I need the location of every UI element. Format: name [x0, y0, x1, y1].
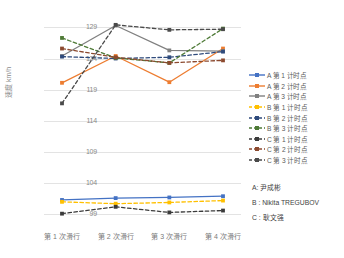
y-axis-tick-label: 99 — [75, 210, 97, 217]
data-point-marker — [114, 23, 118, 27]
data-point-marker — [60, 54, 64, 58]
data-point-marker — [114, 205, 118, 209]
data-point-marker — [221, 209, 225, 213]
legend-label: B 第 1 计时点 — [265, 102, 308, 112]
legend-key-icon — [249, 70, 265, 80]
legend-label: A 第 3 计时点 — [265, 91, 307, 101]
data-point-marker — [167, 196, 171, 200]
data-point-marker — [167, 61, 171, 65]
data-point-marker — [60, 200, 64, 204]
series-line — [62, 201, 223, 204]
legend-item[interactable]: B 第 2 计时点 — [249, 112, 344, 123]
data-point-marker — [114, 196, 118, 200]
legend-label: A 第 2 计时点 — [265, 81, 307, 91]
legend-label: C 第 3 计时点 — [265, 155, 308, 165]
x-axis-tick-label: 第 4 次滑行 — [197, 231, 249, 241]
data-point-marker — [167, 49, 171, 53]
legend-item[interactable]: A 第 3 计时点 — [249, 91, 344, 102]
legend-key-icon — [249, 144, 265, 154]
y-axis-tick-label: 104 — [75, 179, 97, 186]
data-point-marker — [60, 198, 64, 202]
note-line: C : 耿文强 — [252, 212, 344, 222]
data-point-marker — [60, 36, 64, 40]
gridline — [44, 214, 241, 215]
data-point-marker — [60, 47, 64, 51]
y-axis-tick-label: 119 — [75, 86, 97, 93]
legend-item[interactable]: B 第 3 计时点 — [249, 123, 344, 134]
x-axis-tick-label: 第 1 次滑行 — [36, 231, 88, 241]
series-line — [62, 196, 223, 200]
legend-notes: A: 尹成彬B : Nikita TREGUBOVC : 耿文强 — [252, 182, 344, 229]
legend-item[interactable]: B 第 1 计时点 — [249, 102, 344, 113]
legend-item[interactable]: A 第 1 计时点 — [249, 70, 344, 81]
gridline — [44, 90, 241, 91]
legend-item[interactable]: C 第 3 计时点 — [249, 155, 344, 166]
chart-legend: A 第 1 计时点A 第 2 计时点A 第 3 计时点B 第 1 计时点B 第 … — [249, 70, 344, 165]
gridline — [44, 121, 241, 122]
legend-label: B 第 2 计时点 — [265, 113, 308, 123]
data-point-marker — [221, 199, 225, 203]
chart-container: 速度 km/h 99104109114119124129 第 1 次滑行第 2 … — [0, 0, 344, 258]
data-point-marker — [167, 201, 171, 205]
data-point-marker — [221, 50, 225, 54]
y-axis-tick-label: 129 — [75, 23, 97, 30]
gridline — [44, 183, 241, 184]
legend-label: B 第 3 计时点 — [265, 123, 308, 133]
legend-key-icon — [249, 155, 265, 165]
legend-item[interactable]: A 第 2 计时点 — [249, 81, 344, 92]
data-point-marker — [221, 47, 225, 51]
legend-key-icon — [249, 91, 265, 101]
legend-key-icon — [249, 102, 265, 112]
legend-label: A 第 1 计时点 — [265, 70, 307, 80]
legend-label: C 第 2 计时点 — [265, 144, 308, 154]
legend-item[interactable]: C 第 1 计时点 — [249, 134, 344, 145]
data-point-marker — [60, 101, 64, 105]
x-axis-tick-label: 第 2 次滑行 — [90, 231, 142, 241]
data-point-marker — [221, 194, 225, 198]
data-point-marker — [167, 80, 171, 84]
legend-item[interactable]: C 第 2 计时点 — [249, 144, 344, 155]
x-axis-tick-label: 第 3 次滑行 — [143, 231, 195, 241]
note-line: B : Nikita TREGUBOV — [252, 199, 344, 206]
data-point-marker — [167, 28, 171, 32]
data-point-marker — [167, 61, 171, 65]
data-point-marker — [60, 81, 64, 85]
legend-key-icon — [249, 113, 265, 123]
gridline — [44, 152, 241, 153]
data-point-marker — [221, 49, 225, 53]
data-point-marker — [114, 202, 118, 206]
note-line: A: 尹成彬 — [252, 182, 344, 192]
data-point-marker — [114, 54, 118, 58]
y-axis-tick-label: 109 — [75, 148, 97, 155]
legend-label: C 第 1 计时点 — [265, 134, 308, 144]
y-axis-tick-label: 124 — [75, 55, 97, 62]
gridline — [44, 27, 241, 28]
legend-key-icon — [249, 123, 265, 133]
legend-key-icon — [249, 134, 265, 144]
legend-key-icon — [249, 81, 265, 91]
y-axis-tick-label: 114 — [75, 117, 97, 124]
gridline — [44, 59, 241, 60]
y-axis-title: 速度 km/h — [3, 38, 13, 98]
